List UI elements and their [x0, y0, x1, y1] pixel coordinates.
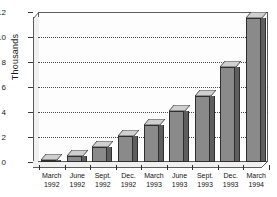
x-tick-label: March1994 [239, 172, 273, 189]
x-axis-labels: March1992June1992Sept.1992Dec.1992March1… [33, 170, 268, 195]
bar-top-bevel-icon [92, 141, 113, 147]
x-tick-mark [269, 165, 270, 170]
bar-top-bevel-icon [195, 90, 216, 96]
bar [220, 67, 235, 162]
bar-top-bevel-icon [67, 150, 88, 156]
x-tick-mark [90, 165, 91, 170]
gridline [38, 37, 268, 38]
plot-floor-face [33, 161, 262, 168]
x-tick-mark [167, 165, 168, 170]
x-tick-mark [65, 165, 66, 170]
bar-side-face [82, 156, 87, 162]
plot-left-face [33, 17, 39, 168]
bar-top-bevel-icon [144, 119, 165, 125]
bar-side-face [184, 111, 189, 162]
bar [92, 147, 107, 162]
y-axis-title: Thousands [10, 17, 20, 97]
bar-front-face [246, 18, 261, 162]
bar [195, 96, 210, 162]
bar-top-bevel-icon [220, 61, 241, 67]
y-tick-label: 4 [0, 108, 6, 117]
bar [169, 111, 184, 162]
bar [144, 125, 159, 163]
bar [41, 160, 56, 163]
bar [67, 156, 82, 162]
bar-front-face [169, 111, 184, 162]
bar-side-face [210, 96, 215, 162]
bar-front-face [92, 147, 107, 162]
plot-area [33, 12, 268, 168]
x-tick-label-month: March [239, 172, 273, 181]
y-tick-label: 12 [0, 8, 6, 17]
bar-top-bevel-icon [118, 130, 139, 136]
bar-front-face [118, 136, 133, 162]
bar-top-bevel-icon [246, 12, 267, 18]
x-tick-mark [192, 165, 193, 170]
y-tick-label: 8 [0, 58, 6, 67]
bar-front-face [41, 160, 56, 163]
bar-front-face [144, 125, 159, 163]
bar [118, 136, 133, 162]
y-tick-label: 10 [0, 33, 6, 42]
x-tick-mark [218, 165, 219, 170]
bar-front-face [67, 156, 82, 162]
x-tick-mark [243, 165, 244, 170]
bar-side-face [235, 67, 240, 162]
y-tick-label: 2 [0, 133, 6, 142]
x-tick-mark [116, 165, 117, 170]
bar-chart: Thousands 024681012 March1992June1992Sep… [0, 0, 277, 197]
bar-front-face [220, 67, 235, 162]
x-tick-mark [141, 165, 142, 170]
x-tick-label-year: 1994 [239, 181, 273, 190]
bar-side-face [133, 136, 138, 162]
bar-top-bevel-icon [41, 154, 62, 160]
bar-side-face [159, 125, 164, 163]
y-tick-label: 6 [0, 83, 6, 92]
bar-side-face [107, 147, 112, 162]
y-tick-label: 0 [0, 158, 6, 167]
bar-side-face [56, 160, 61, 163]
bar-side-face [261, 18, 266, 162]
bar-front-face [195, 96, 210, 162]
x-tick-mark [39, 165, 40, 170]
bar [246, 18, 261, 162]
plot-corner-top-left-icon [33, 12, 40, 19]
bar-top-bevel-icon [169, 105, 190, 111]
